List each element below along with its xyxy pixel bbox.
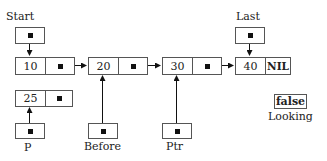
ptr-label: Ptr: [166, 140, 183, 153]
looking-label: Looking: [268, 110, 313, 123]
node-value: 10: [16, 58, 45, 74]
p-pointer-box: [15, 123, 45, 139]
pointer-dot-icon: [175, 129, 180, 134]
last-pointer-box: [235, 27, 265, 44]
p-label: P: [24, 141, 31, 154]
node-value: 20: [89, 58, 118, 74]
pointer-dot-icon: [205, 64, 210, 69]
node-value: 30: [163, 58, 192, 74]
pointer-dot-icon: [58, 64, 63, 69]
pointer-dot-icon: [28, 33, 33, 38]
list-node-10: 10: [15, 57, 75, 75]
node-value: 40: [236, 58, 265, 74]
pointer-dot-icon: [131, 64, 136, 69]
list-node-40: 40 NIL: [235, 57, 291, 75]
pointer-dot-icon: [248, 33, 253, 38]
pointer-dot-icon: [101, 129, 106, 134]
list-node-30: 30: [162, 57, 222, 75]
node-value: 25: [16, 91, 45, 106]
list-node-20: 20: [88, 57, 148, 75]
before-pointer-box: [88, 123, 118, 139]
pointer-dot-icon: [28, 129, 33, 134]
pointer-dot-icon: [57, 96, 62, 101]
ptr-pointer-box: [162, 123, 192, 139]
start-label: Start: [6, 10, 34, 23]
before-label: Before: [84, 140, 121, 153]
new-node-25: 25: [15, 90, 73, 107]
nil-cell: NIL: [265, 58, 290, 74]
start-pointer-box: [15, 27, 45, 44]
last-label: Last: [236, 10, 260, 23]
looking-flag-value: false: [274, 94, 307, 109]
